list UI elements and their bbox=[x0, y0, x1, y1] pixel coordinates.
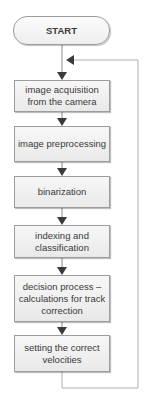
step-indexing-classification: indexing and classification bbox=[14, 225, 110, 258]
arrow-down-icon bbox=[57, 327, 67, 335]
step-image-preprocessing: image preprocessing bbox=[14, 126, 110, 162]
flowchart: START image acquisition from the camera … bbox=[0, 0, 146, 409]
arrow-down-icon bbox=[57, 118, 67, 126]
step-binarization: binarization bbox=[14, 176, 110, 208]
arrow-down-icon bbox=[57, 217, 67, 225]
arrow-down-icon bbox=[57, 267, 67, 275]
step-image-acquisition: image acquisition from the camera bbox=[14, 80, 110, 112]
step-decision-process: decision process – calculations for trac… bbox=[14, 275, 110, 322]
loop-arrow-icon bbox=[66, 55, 74, 65]
start-terminal: START bbox=[13, 16, 110, 45]
arrow-down-icon bbox=[57, 72, 67, 80]
arrow-down-icon bbox=[57, 168, 67, 176]
step-setting-velocities: setting the correct velocities bbox=[14, 335, 110, 372]
